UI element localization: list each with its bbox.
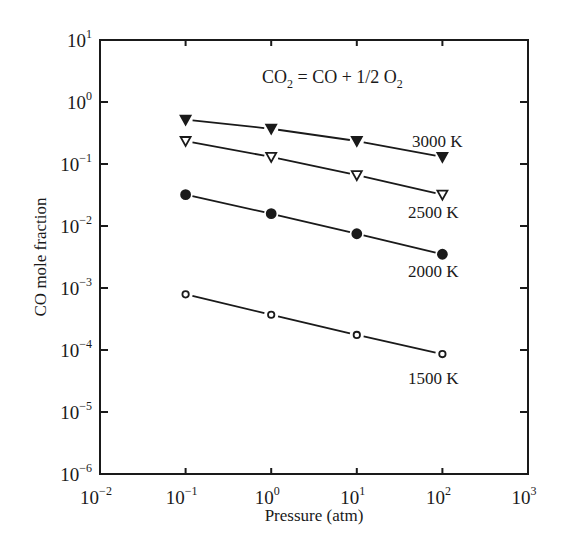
data-point-marker bbox=[352, 229, 361, 238]
x-tick-label: 100 bbox=[255, 484, 280, 508]
series-lines bbox=[192, 120, 435, 352]
y-tick-label: 100 bbox=[67, 89, 92, 113]
series-label: 2500 K bbox=[408, 203, 459, 222]
data-point-marker bbox=[437, 153, 447, 162]
y-tick-label: 10−5 bbox=[60, 399, 92, 423]
data-point-marker bbox=[181, 190, 190, 199]
data-point-marker bbox=[439, 351, 445, 357]
data-point-marker bbox=[352, 137, 362, 146]
data-point-marker bbox=[181, 116, 191, 125]
data-point-marker bbox=[352, 171, 362, 180]
data-point-marker bbox=[437, 191, 447, 200]
plot-area bbox=[100, 40, 528, 474]
data-point-marker bbox=[266, 153, 276, 162]
data-point-marker bbox=[181, 137, 191, 146]
x-tick-label: 103 bbox=[512, 484, 537, 508]
series-labels: 3000 K2500 K2000 K1500 K bbox=[408, 132, 463, 388]
x-axis-title: Pressure (atm) bbox=[265, 506, 364, 525]
plot-frame bbox=[100, 40, 528, 474]
x-tick-label: 10−1 bbox=[166, 484, 198, 508]
y-tick-label: 10−4 bbox=[60, 337, 92, 361]
chart: 10−210−110010110210310110010−110−210−310… bbox=[0, 0, 571, 559]
data-point-marker bbox=[267, 209, 276, 218]
series-label: 1500 K bbox=[408, 369, 459, 388]
reaction-annotation: CO2 = CO + 1/2 O2 bbox=[262, 67, 403, 91]
x-tick-label: 102 bbox=[426, 484, 451, 508]
series-label: 2000 K bbox=[408, 262, 459, 281]
y-tick-label: 10−3 bbox=[60, 275, 92, 299]
data-point-marker bbox=[268, 312, 274, 318]
x-tick-label: 10−2 bbox=[80, 484, 112, 508]
data-point-marker bbox=[438, 250, 447, 259]
y-axis-title: CO mole fraction bbox=[31, 197, 50, 316]
data-point-marker bbox=[354, 332, 360, 338]
x-tick-label: 101 bbox=[340, 484, 365, 508]
data-point-marker bbox=[266, 125, 276, 134]
series-label: 3000 K bbox=[412, 132, 463, 151]
axis-ticks: 10−210−110010110210310110010−110−210−310… bbox=[60, 27, 536, 508]
data-point-marker bbox=[182, 291, 188, 297]
y-tick-label: 10−2 bbox=[60, 213, 92, 237]
y-tick-label: 10−1 bbox=[60, 151, 92, 175]
series-markers bbox=[181, 116, 448, 358]
y-tick-label: 10−6 bbox=[60, 461, 92, 485]
y-tick-label: 101 bbox=[67, 27, 92, 51]
